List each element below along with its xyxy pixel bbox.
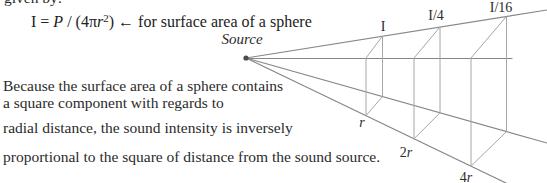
distance-label-r: r [359,115,365,130]
distance-label-4r: 4r [460,170,473,183]
intensity-label-I: I [381,19,386,34]
diagram-labels: Source I I/4 I/16 r 2r 4r [221,0,512,183]
ray-top [246,10,547,58]
intensity-label-I16: I/16 [490,0,513,15]
square-r-bottom-edge [366,97,383,116]
inverse-square-diagram: Source I I/4 I/16 r 2r 4r [0,0,547,183]
source-label: Source [221,31,262,47]
wavefront-squares [366,16,507,166]
intensity-label-I4: I/4 [428,8,444,23]
source-dot [243,55,248,60]
distance-label-2r: 2r [400,145,413,160]
sound-rays [246,10,547,183]
wavefront-square-r [366,36,383,116]
square-r-top-edge [366,36,383,58]
document-page: given by: I = P / (4πr2) ← for surface a… [0,0,547,183]
square-4r-bottom-edge [471,132,507,167]
wavefront-square-4r [471,16,507,166]
square-2r-bottom-edge [414,113,440,139]
square-4r-top-edge [471,16,507,58]
square-2r-top-edge [414,27,440,58]
wavefront-square-2r [414,27,440,139]
